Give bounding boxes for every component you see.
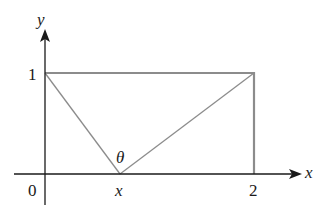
tick-label-y-1: 1 <box>28 65 37 84</box>
tick-label-x-point: x <box>114 181 123 200</box>
segment-right <box>120 73 254 174</box>
angle-theta-label: θ <box>116 148 124 167</box>
segment-left <box>45 73 120 174</box>
diagram-canvas: y x 1 0 x 2 θ <box>0 0 315 217</box>
y-axis-label: y <box>35 10 45 29</box>
tick-label-origin: 0 <box>28 181 37 200</box>
x-axis-label: x <box>304 163 313 182</box>
tick-label-x-2: 2 <box>249 181 258 200</box>
